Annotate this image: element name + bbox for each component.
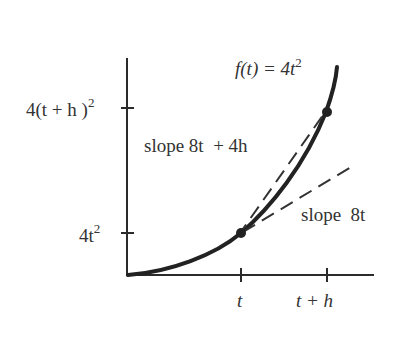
point-t: [236, 228, 246, 238]
y-tick-label-upper: 4(t + h )2: [26, 95, 94, 121]
function-label: f(t) = 4t2: [235, 55, 302, 80]
y-tick-label-lower: 4t2: [79, 221, 100, 246]
x-tick-label-t: t: [237, 290, 243, 311]
derivative-diagram: f(t) = 4t2 4(t + h )2 4t2 t t + h slope …: [0, 0, 407, 337]
function-curve: [128, 67, 337, 275]
point-t-plus-h: [322, 107, 332, 117]
x-tick-label-t-plus-h: t + h: [296, 290, 333, 311]
secant-slope-label: slope 8t + 4h: [144, 135, 248, 156]
tangent-slope-label: slope 8t: [301, 204, 366, 225]
